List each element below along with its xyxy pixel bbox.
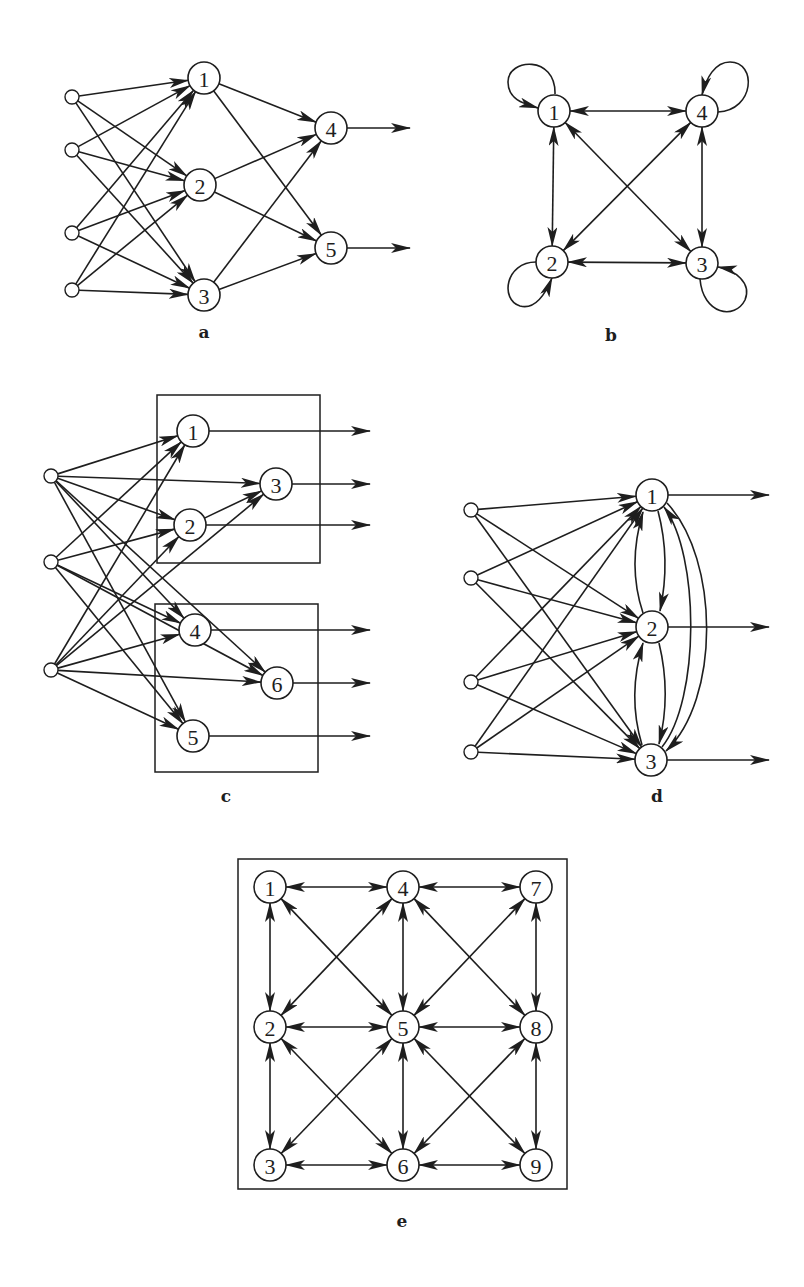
node-label: 5 xyxy=(398,1016,409,1041)
node-5: 5 xyxy=(315,232,347,264)
input-node-2 xyxy=(44,555,58,569)
node-4: 4 xyxy=(179,614,211,646)
node-3: 3 xyxy=(686,247,718,279)
input-node-4 xyxy=(464,745,478,759)
edge-input3-to-1 xyxy=(77,90,194,227)
edge-3-to-2 xyxy=(635,643,643,745)
input-node-1 xyxy=(464,503,478,517)
edge-input1-to-1 xyxy=(58,436,178,474)
node-label: 7 xyxy=(531,876,542,901)
node-label: 2 xyxy=(265,1016,276,1041)
edge-input2-to-2 xyxy=(79,152,185,181)
node-label: 6 xyxy=(398,1154,409,1179)
node-label: 2 xyxy=(647,616,658,641)
node-3: 3 xyxy=(260,468,292,500)
node-label: 4 xyxy=(398,876,409,901)
edge-2-to-3 xyxy=(204,491,261,518)
edge-input2-to-1 xyxy=(477,502,637,575)
node-label: 3 xyxy=(646,749,657,774)
node-1: 1 xyxy=(177,415,209,447)
edge-input3-to-4 xyxy=(58,634,180,668)
input-node-1 xyxy=(65,90,79,104)
edge-input4-to-2 xyxy=(477,636,639,748)
node-3: 3 xyxy=(254,1149,286,1181)
edge-input1-to-2 xyxy=(477,514,639,619)
edge-input1-to-6 xyxy=(56,481,265,672)
panel-label: d xyxy=(651,786,663,806)
edge-2-3 xyxy=(568,262,686,263)
edge-2-to-1 xyxy=(635,512,643,613)
node-label: 4 xyxy=(326,117,337,142)
edge-1-2 xyxy=(552,127,554,246)
node-9: 9 xyxy=(520,1149,552,1181)
node-label: 1 xyxy=(199,67,210,92)
input-node-1 xyxy=(44,469,58,483)
node-label: 4 xyxy=(190,619,201,644)
node-label: 5 xyxy=(188,725,199,750)
edge-input1-to-5 xyxy=(54,482,185,722)
node-label: 4 xyxy=(697,100,708,125)
edge-input2-to-3 xyxy=(476,583,640,749)
edge-input3-to-2 xyxy=(478,632,637,680)
edge-2-to-3 xyxy=(659,643,665,744)
panel-label: c xyxy=(221,786,231,806)
panel-b-recurrent-network: 1234b xyxy=(508,62,748,345)
input-node-2 xyxy=(464,571,478,585)
edge-input4-to-2 xyxy=(77,195,187,285)
edge-input4-to-1 xyxy=(475,508,643,746)
input-node-3 xyxy=(464,675,478,689)
edge-input1-to-1 xyxy=(478,496,636,509)
input-node-2 xyxy=(65,143,79,157)
input-node-3 xyxy=(44,663,58,677)
panel-e-lattice-network: 123456789e xyxy=(238,859,567,1231)
node-label: 3 xyxy=(265,1154,276,1179)
node-2: 2 xyxy=(184,169,216,201)
node-1: 1 xyxy=(636,479,668,511)
node-label: 3 xyxy=(697,252,708,277)
node-label: 6 xyxy=(272,672,283,697)
panel-label: a xyxy=(198,322,209,342)
edge-input3-to-6 xyxy=(58,670,261,682)
node-3: 3 xyxy=(635,744,667,776)
edge-input3-to-3 xyxy=(78,236,189,288)
edge-input3-to-3 xyxy=(477,685,636,754)
node-label: 1 xyxy=(188,420,199,445)
panel-label: b xyxy=(605,325,617,345)
node-2: 2 xyxy=(536,246,568,278)
node-2: 2 xyxy=(254,1011,286,1043)
node-1: 1 xyxy=(188,62,220,94)
node-5: 5 xyxy=(177,720,209,752)
edge-input3-to-5 xyxy=(57,673,178,729)
node-8: 8 xyxy=(520,1011,552,1043)
node-label: 3 xyxy=(199,284,210,309)
edge-input2-to-1 xyxy=(78,86,190,147)
node-4: 4 xyxy=(315,112,347,144)
edge-input4-to-3 xyxy=(478,752,635,759)
edge-input1-to-1 xyxy=(79,80,188,96)
panel-c-modular-network: 123456c xyxy=(44,395,370,806)
node-label: 3 xyxy=(271,473,282,498)
node-label: 8 xyxy=(531,1016,542,1041)
input-node-4 xyxy=(65,283,79,297)
panel-d-recurrent-layer-network: 123d xyxy=(464,479,769,806)
figure-canvas: 12345a 1234b 123456c 123d 123456789e xyxy=(0,0,804,1287)
edge-input1-to-3 xyxy=(58,476,260,483)
node-7: 7 xyxy=(520,871,552,903)
edge-input4-to-3 xyxy=(79,290,188,294)
node-label: 1 xyxy=(265,876,276,901)
node-label: 5 xyxy=(326,237,337,262)
node-2: 2 xyxy=(636,611,668,643)
node-label: 2 xyxy=(547,251,558,276)
edge-2-to-5 xyxy=(214,192,316,241)
node-4: 4 xyxy=(686,95,718,127)
edge-input2-to-1 xyxy=(56,442,181,557)
node-5: 5 xyxy=(387,1011,419,1043)
node-label: 2 xyxy=(195,174,206,199)
node-label: 1 xyxy=(647,484,658,509)
node-6: 6 xyxy=(261,667,293,699)
node-label: 1 xyxy=(549,100,560,125)
node-6: 6 xyxy=(387,1149,419,1181)
node-3: 3 xyxy=(188,279,220,311)
node-1: 1 xyxy=(538,95,570,127)
node-label: 9 xyxy=(531,1154,542,1179)
